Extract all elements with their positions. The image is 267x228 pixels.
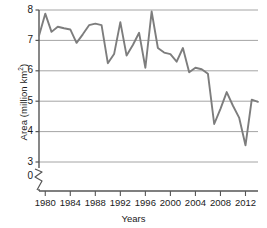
y-axis-title: Area (million km2)	[17, 37, 29, 167]
x-tick-label: 2012	[225, 197, 265, 208]
y-axis-title-suffix: )	[18, 64, 29, 67]
y-tick-label: 8	[13, 4, 33, 15]
data-series-line	[39, 12, 258, 146]
y-axis-title-exponent: 2	[17, 67, 24, 71]
chart-canvas	[0, 0, 267, 228]
x-tick-marks	[45, 191, 245, 196]
axis-break-symbol	[35, 169, 42, 190]
y-axis-title-text: Area (million km	[18, 71, 29, 141]
y-tick-label: 0	[13, 170, 33, 181]
line-chart: 8765430 19801984198819921996200020042008…	[0, 0, 267, 228]
x-axis-title: Years	[0, 213, 267, 224]
